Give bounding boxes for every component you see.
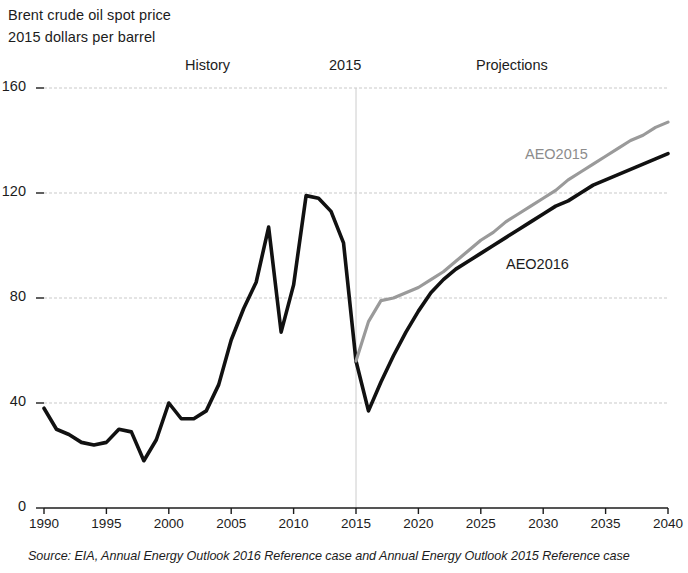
y-tick-label-40: 40 bbox=[0, 393, 26, 409]
x-tick-label-2035: 2035 bbox=[583, 516, 629, 531]
y-tick-label-80: 80 bbox=[0, 288, 26, 304]
x-tick-label-1990: 1990 bbox=[21, 516, 67, 531]
x-tick-label-2025: 2025 bbox=[458, 516, 504, 531]
x-tick-label-2040: 2040 bbox=[645, 516, 688, 531]
series-label-aeo2016: AEO2016 bbox=[506, 256, 569, 272]
y-tick-label-0: 0 bbox=[0, 498, 26, 514]
series-line-aeo2015 bbox=[356, 122, 668, 361]
x-tick-label-1995: 1995 bbox=[83, 516, 129, 531]
x-tick-label-2005: 2005 bbox=[208, 516, 254, 531]
x-tick-label-2015: 2015 bbox=[333, 516, 379, 531]
series-line-aeo2016 bbox=[356, 154, 668, 411]
series-label-aeo2015: AEO2015 bbox=[525, 146, 588, 162]
x-tick-label-2030: 2030 bbox=[520, 516, 566, 531]
y-tick-label-160: 160 bbox=[0, 78, 26, 94]
x-tick-label-2010: 2010 bbox=[271, 516, 317, 531]
x-tick-label-2020: 2020 bbox=[395, 516, 441, 531]
series-line-history bbox=[44, 196, 356, 461]
y-tick-label-120: 120 bbox=[0, 183, 26, 199]
source-note: Source: EIA, Annual Energy Outlook 2016 … bbox=[28, 549, 630, 563]
x-tick-label-2000: 2000 bbox=[146, 516, 192, 531]
x-axis-ticks-group bbox=[44, 508, 668, 514]
